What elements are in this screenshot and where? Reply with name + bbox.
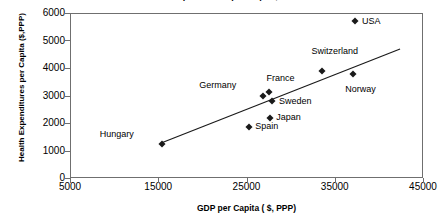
data-point-label: Norway	[345, 84, 376, 94]
data-point-marker[interactable]	[265, 89, 272, 96]
data-point-label: Switzerland	[312, 46, 359, 56]
data-point-label: Sweden	[279, 96, 312, 106]
x-tick-label: 45000	[393, 181, 442, 192]
data-point-marker[interactable]	[318, 67, 325, 74]
y-tick-label: 3000	[25, 91, 65, 101]
x-tick-mark	[70, 178, 71, 183]
data-point-label: USA	[362, 16, 381, 26]
data-point-label: Hungary	[100, 129, 134, 139]
x-tick-mark	[158, 178, 159, 183]
data-point-marker[interactable]	[158, 140, 165, 147]
x-tick-mark	[335, 178, 336, 183]
data-point-label: Germany	[199, 80, 236, 90]
y-tick-label: 1000	[25, 146, 65, 156]
scatter-chart: Health Expenditures per Capita, 2000 Hea…	[0, 0, 442, 219]
x-tick-mark	[247, 178, 248, 183]
data-point-label: France	[267, 73, 295, 83]
data-point-marker[interactable]	[267, 114, 274, 121]
x-axis-title: GDP per Capita ( $, PPP)	[70, 203, 423, 213]
data-point-marker[interactable]	[350, 70, 357, 77]
y-tick-label: 2000	[25, 118, 65, 128]
data-point-label: Spain	[255, 121, 278, 131]
chart-title: Health Expenditures per Capita, 2000	[0, 0, 442, 2]
y-tick-label: 4000	[25, 63, 65, 73]
y-tick-label: 5000	[25, 36, 65, 46]
data-point-label: Japan	[276, 112, 301, 122]
x-tick-mark	[423, 178, 424, 183]
y-tick-label: 6000	[25, 8, 65, 18]
plot-area	[70, 13, 423, 178]
